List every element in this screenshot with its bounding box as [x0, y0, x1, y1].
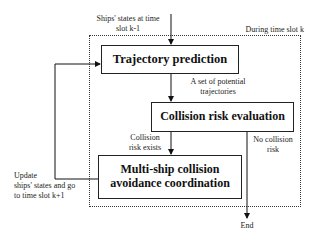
feedback-label: Update ships' states and go to time slot… — [14, 171, 86, 201]
no-collision-risk-label: No collision risk — [248, 135, 298, 155]
end-label: End — [235, 221, 259, 231]
input-label-line2: slot k-1 — [88, 24, 168, 34]
risk-exists-line2: risk exists — [122, 143, 168, 153]
coordination-label-line1: Multi-ship collision — [120, 163, 219, 177]
trajectories-output-label: A set of potential trajectories — [178, 77, 258, 97]
trajectory-prediction-node: Trajectory prediction — [101, 45, 239, 74]
feedback-line3: to time slot k+1 — [14, 191, 86, 201]
feedback-line2: ships' states and go — [14, 181, 86, 191]
input-label: Ships' states at time slot k-1 — [88, 14, 168, 34]
trajectories-label-line1: A set of potential — [178, 77, 258, 87]
trajectory-prediction-label: Trajectory prediction — [113, 52, 227, 66]
coordination-node: Multi-ship collision avoidance coordinat… — [98, 155, 242, 199]
risk-exists-label: Collision risk exists — [122, 133, 168, 153]
input-label-line1: Ships' states at time — [88, 14, 168, 24]
no-risk-line2: risk — [248, 145, 298, 155]
collision-risk-evaluation-label: Collision risk evaluation — [160, 110, 285, 124]
risk-exists-line1: Collision — [122, 133, 168, 143]
no-risk-line1: No collision — [248, 135, 298, 145]
feedback-line1: Update — [14, 171, 86, 181]
trajectories-label-line2: trajectories — [178, 87, 258, 97]
collision-risk-evaluation-node: Collision risk evaluation — [151, 102, 294, 132]
coordination-label-line2: avoidance coordination — [110, 177, 230, 191]
